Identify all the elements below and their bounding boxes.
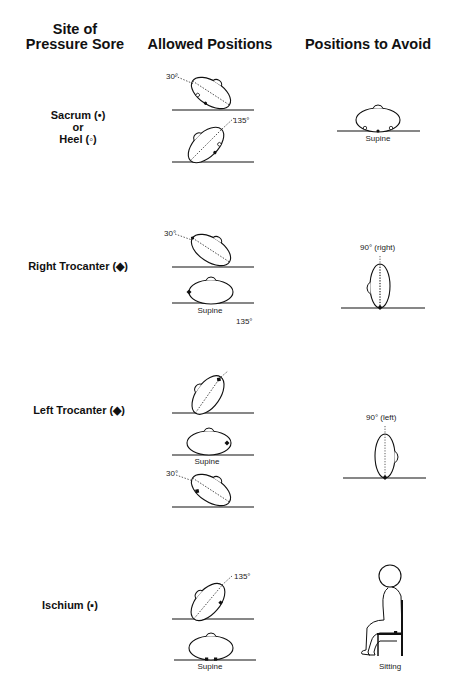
ischium-marker	[214, 658, 217, 661]
positions-diagram: 30° 135° Supine 30°	[0, 0, 452, 683]
position-label: Sitting	[379, 662, 401, 671]
angle-label: 30°	[164, 229, 176, 238]
position-label: Supine	[195, 457, 220, 466]
allowed-ischium-supine: Supine	[174, 633, 256, 671]
position-label: Supine	[366, 134, 391, 143]
heel-marker	[363, 126, 366, 129]
angle-label: 30°	[166, 469, 178, 478]
ischium-marker	[394, 631, 397, 634]
avoid-right-trocanter-90deg: 90° (right)	[341, 243, 425, 310]
head	[379, 565, 401, 587]
position-label: Supine	[198, 306, 223, 315]
angle-label: 90° (right)	[360, 243, 396, 252]
avoid-sacrum-supine: Supine	[337, 105, 420, 143]
angle-label: 135°	[233, 116, 250, 125]
extra-angle-label: 135°	[236, 317, 253, 326]
trocanter-marker	[383, 475, 388, 480]
position-label: Supine	[198, 662, 223, 671]
allowed-left-trocanter-30deg: 30°	[166, 465, 254, 512]
allowed-sacrum-135deg: 135°	[172, 116, 254, 170]
allowed-sacrum-30deg: 30°	[166, 68, 254, 116]
allowed-left-trocanter-supine: Supine	[172, 428, 254, 466]
trocanter-marker	[378, 305, 383, 310]
allowed-right-trocanter-30deg: 30°	[164, 224, 254, 272]
avoid-left-trocanter-90deg: 90° (left)	[343, 413, 426, 480]
sacrum-marker	[376, 129, 379, 132]
allowed-right-trocanter-supine: Supine 135°	[172, 277, 254, 326]
allowed-ischium-135deg: 135°	[172, 572, 254, 627]
ischium-marker	[205, 658, 208, 661]
avoid-ischium-sitting: Sitting	[362, 565, 403, 671]
angle-label: 90° (left)	[366, 413, 397, 422]
angle-label: 30°	[166, 72, 178, 81]
allowed-left-trocanter-135deg	[172, 368, 254, 420]
angle-label: 135°	[234, 572, 251, 581]
heel-marker	[389, 126, 392, 129]
